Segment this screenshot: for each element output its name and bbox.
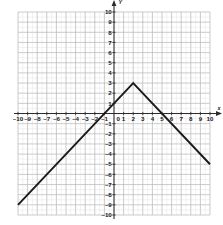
x-tick-label: 7 <box>179 115 183 122</box>
x-tick-label: –10 <box>13 115 24 122</box>
coordinate-graph: –10–9–8–7–6–5–4–3–2–1012345678910 109876… <box>0 0 223 225</box>
y-tick-label: –8 <box>105 191 112 198</box>
y-tick-label: –1 <box>105 120 112 127</box>
y-tick-label: 4 <box>108 69 112 76</box>
x-tick-label: 0 <box>117 115 121 122</box>
x-tick-label: –8 <box>34 115 41 122</box>
y-tick-label: 10 <box>105 8 112 15</box>
x-tick-label: –4 <box>72 115 79 122</box>
y-tick-label: –2 <box>105 130 112 137</box>
x-tick-label: 8 <box>189 115 193 122</box>
x-tick-label: –5 <box>63 115 70 122</box>
x-tick-label: 9 <box>199 115 203 122</box>
x-tick-label: –3 <box>82 115 89 122</box>
y-tick-label: –3 <box>105 140 112 147</box>
y-tick-label: 7 <box>108 39 112 46</box>
y-tick-label: –4 <box>105 150 112 157</box>
x-tick-label: 2 <box>131 115 135 122</box>
y-tick-label: –9 <box>105 201 112 208</box>
x-tick-label: –9 <box>24 115 31 122</box>
axis-name-labels: xY <box>118 0 221 111</box>
x-axis-name: x <box>217 105 222 111</box>
x-tick-label: 4 <box>151 115 155 122</box>
x-tick-label: 10 <box>207 115 214 122</box>
y-tick-label: 8 <box>108 29 112 36</box>
y-tick-label: –10 <box>101 211 112 218</box>
x-tick-label: 3 <box>141 115 145 122</box>
y-tick-label: 6 <box>108 49 112 56</box>
y-tick-label: –7 <box>105 181 112 188</box>
y-tick-label: 3 <box>108 79 112 86</box>
y-tick-label: –6 <box>105 171 112 178</box>
y-tick-label: 5 <box>108 59 112 66</box>
y-tick-label: 9 <box>108 18 112 25</box>
y-axis-name: Y <box>118 0 122 5</box>
y-tick-label: 2 <box>108 89 112 96</box>
x-tick-label: –7 <box>43 115 50 122</box>
y-tick-label: –5 <box>105 160 112 167</box>
x-axis-tick-labels: –10–9–8–7–6–5–4–3–2–1012345678910 <box>13 115 214 122</box>
graph-canvas: –10–9–8–7–6–5–4–3–2–1012345678910 109876… <box>0 0 223 225</box>
x-tick-label: 6 <box>170 115 174 122</box>
x-tick-label: –6 <box>53 115 60 122</box>
x-tick-label: 1 <box>122 115 126 122</box>
